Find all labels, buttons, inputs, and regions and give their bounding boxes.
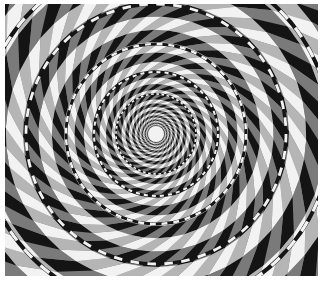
illusion-artwork — [5, 4, 318, 276]
fraser-spiral-illusion — [5, 4, 318, 276]
